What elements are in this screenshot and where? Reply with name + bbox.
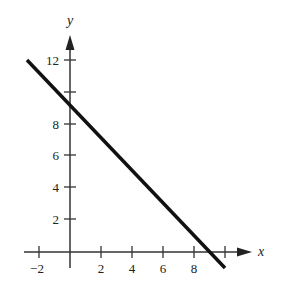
y-axis: 12 8 6 4 2 y (46, 13, 76, 268)
x-axis-arrow-icon (237, 248, 252, 257)
x-tick-label: −2 (30, 261, 44, 276)
y-axis-label: y (65, 13, 74, 28)
x-tick-label: 4 (129, 261, 136, 276)
y-tick-label: 6 (53, 148, 60, 163)
x-tick-label: 8 (191, 261, 198, 276)
y-tick-label: 8 (53, 117, 60, 132)
chart: −2 2 4 6 8 x 12 8 6 4 2 y (0, 0, 282, 288)
x-tick-label: 6 (160, 261, 167, 276)
x-axis-label: x (257, 244, 265, 259)
y-tick-label: 4 (53, 180, 60, 195)
y-tick-label: 2 (53, 212, 60, 227)
x-axis: −2 2 4 6 8 x (24, 244, 265, 276)
y-tick-label: 12 (46, 53, 59, 68)
data-line (27, 60, 225, 268)
y-axis-arrow-icon (66, 35, 75, 50)
x-tick-label: 2 (98, 261, 105, 276)
